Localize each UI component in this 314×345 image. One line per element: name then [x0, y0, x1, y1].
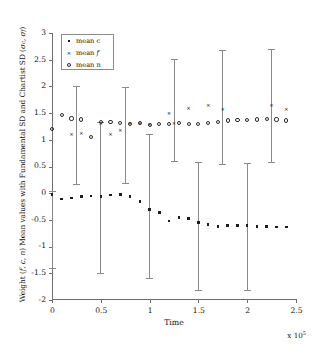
error-bar-cap: [268, 162, 275, 163]
data-point-mean-c: [129, 195, 132, 198]
data-point-mean-c: [90, 195, 93, 198]
data-point-mean-n: [99, 120, 103, 124]
x-tick: 2.5: [296, 299, 297, 303]
x-axis-multiplier: x 105: [287, 330, 306, 340]
data-point-mean-n: [196, 122, 200, 126]
error-bar-cap: [97, 273, 104, 274]
error-bar-cap: [171, 161, 178, 162]
error-bar-cap: [244, 290, 251, 291]
y-axis-title-vars: f, c, n: [18, 251, 27, 271]
data-point-mean-c: [217, 225, 220, 228]
error-bar-line: [174, 59, 175, 161]
x-tick-label: 0.5: [95, 306, 107, 315]
error-bar-cap: [49, 191, 56, 192]
sigma-c-symbol: σ: [18, 44, 27, 49]
data-point-mean-n: [206, 121, 210, 125]
data-point-mean-f: ×: [172, 121, 177, 126]
y-tick-label: 0.5: [34, 161, 46, 170]
chart-figure: Weight (f, c, n) Mean values with Fundam…: [0, 0, 314, 345]
data-point-mean-f: ×: [69, 132, 74, 137]
data-point-mean-n: [177, 121, 181, 125]
legend-item: ×mean f: [62, 47, 113, 59]
error-bar-cap: [244, 163, 251, 164]
data-point-mean-n: [167, 122, 171, 126]
y-tick: 1.5: [49, 113, 53, 114]
data-point-mean-f: ×: [206, 103, 211, 108]
data-point-mean-f: ×: [186, 106, 191, 111]
data-point-mean-n: [265, 117, 269, 121]
y-axis-title-suffix: ): [18, 27, 27, 30]
data-point-mean-c: [109, 194, 112, 197]
data-point-mean-n: [60, 113, 64, 117]
y-tick-label: -1: [39, 241, 46, 250]
data-point-mean-n: [50, 127, 54, 131]
y-tick-label: 1: [41, 135, 46, 144]
error-bar-cap: [146, 134, 153, 135]
y-axis-title-prefix: Weight (: [18, 271, 27, 302]
x-tick-label: 2.5: [290, 306, 302, 315]
y-axis-title-comma: ,: [18, 37, 27, 42]
x-tick: 1: [150, 299, 151, 303]
data-point-mean-c: [226, 224, 229, 227]
error-bar-cap: [122, 183, 129, 184]
data-point-mean-n: [157, 122, 161, 126]
data-point-mean-c: [148, 208, 151, 211]
y-tick: 0.5: [49, 167, 53, 168]
x-tick-label: 2: [245, 306, 250, 315]
data-point-mean-c: [236, 224, 239, 227]
error-bar-cap: [195, 290, 202, 291]
x-tick-label: 1: [148, 306, 153, 315]
x-axis-multiplier-exponent: 5: [303, 330, 306, 336]
data-point-mean-c: [197, 221, 200, 224]
data-point-mean-c: [158, 211, 161, 214]
y-tick: 2: [49, 86, 53, 87]
data-point-mean-c: [256, 225, 259, 228]
error-bar-line: [149, 134, 150, 278]
data-point-mean-c: [178, 216, 181, 219]
data-point-mean-c: [275, 226, 278, 229]
y-tick: 1: [49, 140, 53, 141]
data-point-mean-n: [79, 117, 83, 121]
y-tick-label: -1.5: [31, 268, 46, 277]
error-bar-cap: [268, 49, 275, 50]
error-bar-cap: [122, 87, 129, 88]
y-tick-label: 0: [41, 188, 46, 197]
sigma-c-subscript: c: [20, 41, 26, 44]
error-bar-cap: [49, 268, 56, 269]
data-point-mean-n: [216, 120, 220, 124]
x-axis-spine: [52, 299, 296, 300]
x-tick: 0.5: [101, 299, 102, 303]
error-bar-line: [125, 87, 126, 183]
x-axis-multiplier-base: x 10: [287, 331, 302, 340]
y-tick-label: -2: [39, 295, 46, 304]
data-point-mean-c: [168, 220, 171, 223]
data-point-mean-n: [69, 116, 73, 120]
plot-area: -2-1.5-1-0.500.511.522.53 00.511.522.5 ×…: [52, 33, 296, 300]
y-tick: 2.5: [49, 60, 53, 61]
data-point-mean-n: [89, 135, 93, 139]
x-tick-label: 0: [50, 306, 55, 315]
data-point-mean-f: ×: [167, 111, 172, 116]
data-point-mean-c: [100, 195, 103, 198]
error-bar-cap: [219, 50, 226, 51]
data-point-mean-f: ×: [79, 131, 84, 136]
data-point-mean-f: ×: [284, 107, 289, 112]
data-point-mean-c: [139, 200, 142, 203]
data-point-mean-c: [285, 226, 288, 229]
data-point-mean-n: [108, 120, 112, 124]
x-tick: 0: [52, 299, 53, 303]
data-point-mean-f: ×: [220, 107, 225, 112]
y-axis-title-middle: ) Mean values with Fundamental SD and Ch…: [18, 49, 27, 251]
data-point-mean-f: ×: [118, 128, 123, 133]
data-point-mean-c: [70, 197, 73, 200]
error-bar-line: [198, 162, 199, 290]
error-bar-line: [52, 191, 53, 268]
data-point-mean-n: [187, 122, 191, 126]
data-point-mean-c: [207, 223, 210, 226]
data-point-mean-n: [245, 118, 249, 122]
legend-label: mean f: [76, 49, 99, 57]
x-tick: 1.5: [198, 299, 199, 303]
legend-label: mean c: [76, 37, 100, 45]
data-point-mean-c: [60, 198, 63, 201]
error-bar-cap: [219, 164, 226, 165]
